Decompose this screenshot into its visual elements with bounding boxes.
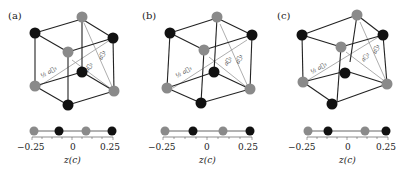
svg-text:−0.25: −0.25 — [288, 142, 316, 152]
panel-a: (a) ½ a⃗₃ a⃗₂ a⃗₁ — [0, 0, 137, 171]
cube-diagram-c: ½ a⃗₃ a⃗₂ a⃗₁ −0.25 0 0.25 z(c) — [270, 0, 410, 171]
svg-text:−0.25: −0.25 — [148, 142, 176, 152]
svg-text:0.25: 0.25 — [238, 142, 258, 152]
svg-text:½ a⃗₃: ½ a⃗₃ — [174, 64, 194, 80]
svg-text:0.25: 0.25 — [100, 142, 120, 152]
svg-text:0: 0 — [70, 142, 76, 152]
svg-text:a⃗₁: a⃗₁ — [96, 49, 107, 61]
svg-text:−0.25: −0.25 — [17, 142, 45, 152]
svg-text:z(c): z(c) — [198, 155, 216, 165]
svg-text:a⃗₂: a⃗₂ — [83, 60, 95, 73]
svg-text:z(c): z(c) — [63, 155, 81, 165]
svg-text:0.25: 0.25 — [376, 142, 396, 152]
panel-b: (b) ½ a⃗₃ a⃗₂ a⃗₁ — [135, 0, 272, 171]
panel-c: (c) ½ a⃗₃ a⃗₂ a⃗₁ — [270, 0, 407, 171]
svg-text:a⃗₂: a⃗₂ — [222, 54, 234, 67]
svg-text:0: 0 — [204, 142, 210, 152]
cube-diagram-b: ½ a⃗₃ a⃗₂ a⃗₁ −0.25 0 0.25 z(c) — [135, 0, 272, 171]
svg-text:0: 0 — [345, 142, 351, 152]
svg-text:a⃗₁: a⃗₁ — [370, 43, 381, 55]
svg-text:a⃗₁: a⃗₁ — [233, 53, 244, 65]
svg-text:½ a⃗₃: ½ a⃗₃ — [39, 64, 59, 80]
svg-text:z(c): z(c) — [338, 155, 356, 165]
cube-diagram-a: ½ a⃗₃ a⃗₂ a⃗₁ −0.25 0 0.25 z(c) — [0, 0, 137, 171]
